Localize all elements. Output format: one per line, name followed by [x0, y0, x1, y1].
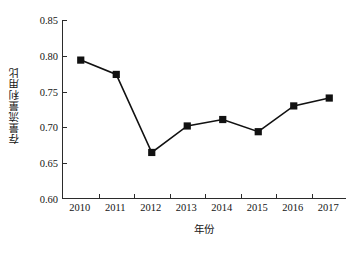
line-chart-figure: 存量流量利用比 0.850.800.750.700.650.60 2010201… — [0, 0, 359, 257]
x-axis-tick-label: 2012 — [140, 202, 161, 213]
data-series-line — [63, 20, 347, 199]
y-axis-tick-mark — [63, 56, 67, 57]
x-axis-tick-mark — [170, 194, 171, 198]
x-axis-tick-mark — [312, 194, 313, 198]
x-axis-tick-label: 2016 — [282, 202, 303, 213]
y-axis-tick-label: 0.75 — [24, 86, 58, 97]
data-point-marker — [148, 149, 155, 156]
y-axis-title: 存量流量利用比 — [6, 0, 24, 210]
data-point-marker — [290, 102, 297, 109]
plot-area — [62, 20, 346, 199]
y-axis-tick-mark — [63, 163, 67, 164]
page-bleed-artifact — [0, 243, 359, 257]
data-point-marker — [326, 94, 333, 101]
data-point-marker — [255, 128, 262, 135]
x-axis-tick-mark — [99, 194, 100, 198]
y-axis-title-text: 存量流量利用比 — [10, 67, 21, 144]
x-axis-tick-label: 2017 — [318, 202, 339, 213]
y-axis-tick-label: 0.80 — [24, 50, 58, 61]
data-point-marker — [184, 122, 191, 129]
y-axis-tick-label: 0.65 — [24, 158, 58, 169]
y-axis-tick-labels: 0.850.800.750.700.650.60 — [24, 0, 58, 257]
y-axis-tick-mark — [63, 20, 67, 21]
y-axis-tick-label: 0.85 — [24, 15, 58, 26]
data-point-marker — [77, 57, 84, 64]
x-axis-tick-labels: 20102011201220132014201520162017 — [62, 202, 346, 218]
x-axis-tick-mark — [205, 194, 206, 198]
x-axis-tick-label: 2010 — [69, 202, 90, 213]
y-axis-tick-mark — [63, 127, 67, 128]
data-point-marker — [113, 71, 120, 78]
x-axis-tick-label: 2013 — [176, 202, 197, 213]
x-axis-tick-label: 2011 — [105, 202, 126, 213]
y-axis-tick-mark — [63, 92, 67, 93]
x-axis-tick-mark — [134, 194, 135, 198]
x-axis-tick-mark — [276, 194, 277, 198]
x-axis-tick-label: 2015 — [247, 202, 268, 213]
series-markers — [77, 57, 333, 157]
x-axis-tick-label: 2014 — [211, 202, 232, 213]
y-axis-tick-label: 0.70 — [24, 122, 58, 133]
x-axis-title: 年份 — [62, 221, 346, 236]
y-axis-tick-label: 0.60 — [24, 194, 58, 205]
x-axis-tick-mark — [241, 194, 242, 198]
data-point-marker — [219, 116, 226, 123]
